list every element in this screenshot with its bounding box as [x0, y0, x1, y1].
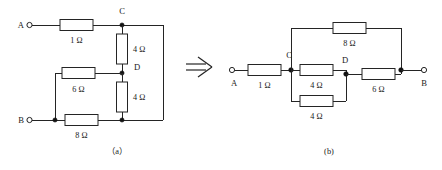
terminal-a-label: A — [18, 20, 25, 30]
terminal-b-label: B — [18, 115, 24, 125]
node-d-label-a: D — [134, 62, 140, 72]
resistor-b-1ohm-label: 1 Ω — [258, 81, 271, 90]
terminal-a-circle — [27, 22, 32, 27]
resistor-a-4ohm-lower-body — [117, 82, 128, 112]
resistor-b-4ohm-upper-label: 4 Ω — [310, 81, 323, 90]
caption-b: (b) — [324, 147, 334, 156]
resistor-a-8ohm-label: 8 Ω — [75, 131, 88, 140]
terminal-b-circle-b — [421, 67, 426, 72]
resistor-b-4ohm-lower-label: 4 Ω — [310, 112, 323, 121]
transform-arrow-icon — [186, 57, 212, 77]
resistor-b-4ohm-lower-body — [300, 96, 333, 107]
resistor-a-6ohm-body — [62, 68, 95, 79]
resistor-a-4ohm-upper-label: 4 Ω — [133, 45, 146, 54]
junction-a-bottom-left-dot — [53, 118, 57, 122]
circuit-a-group: A 1 Ω C 4 Ω D 4 Ω — [18, 6, 163, 156]
resistor-b-8ohm-label: 8 Ω — [343, 39, 356, 48]
resistor-b-8ohm-body — [333, 23, 366, 34]
resistor-b-4ohm-upper-body — [300, 65, 333, 76]
terminal-a-circle-b — [229, 67, 234, 72]
resistor-a-6ohm-label: 6 Ω — [72, 85, 85, 94]
resistor-a-1ohm-body — [60, 20, 93, 31]
terminal-b-circle — [27, 117, 32, 122]
figure-root: A 1 Ω C 4 Ω D 4 Ω — [0, 0, 442, 170]
circuit-b-group: A 1 Ω C 8 Ω 4 Ω 4 — [229, 23, 427, 157]
resistor-b-1ohm-body — [248, 65, 281, 76]
resistor-b-6ohm-body — [362, 69, 395, 80]
resistor-a-4ohm-lower-label: 4 Ω — [133, 93, 146, 102]
resistor-a-1ohm-label: 1 Ω — [70, 36, 83, 45]
junction-a-bottom-mid-dot — [120, 118, 124, 122]
resistor-b-6ohm-label: 6 Ω — [372, 85, 385, 94]
node-d-label-b: D — [342, 55, 348, 65]
circuit-diagram-canvas: A 1 Ω C 4 Ω D 4 Ω — [0, 0, 442, 170]
resistor-a-4ohm-upper-body — [117, 34, 128, 64]
node-c-label-a: C — [119, 6, 125, 16]
terminal-a-label-b: A — [231, 78, 238, 88]
resistor-a-8ohm-body — [65, 115, 98, 126]
caption-a: （a） — [107, 147, 127, 156]
terminal-b-label-b: B — [421, 78, 427, 88]
